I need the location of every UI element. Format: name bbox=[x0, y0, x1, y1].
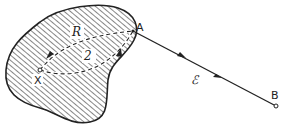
label-R: R bbox=[71, 25, 81, 39]
label-2: 2 bbox=[83, 49, 92, 63]
point-A bbox=[131, 29, 134, 32]
label-E: ℰ bbox=[191, 73, 200, 87]
point-X bbox=[38, 68, 42, 72]
label-A: A bbox=[136, 21, 144, 34]
hatched-region bbox=[6, 5, 137, 122]
path-E-line bbox=[133, 31, 276, 106]
label-B: B bbox=[271, 89, 279, 102]
diagram-canvas: R 2 X A B ℰ bbox=[0, 0, 282, 139]
point-B bbox=[274, 104, 278, 108]
label-X: X bbox=[34, 74, 42, 87]
